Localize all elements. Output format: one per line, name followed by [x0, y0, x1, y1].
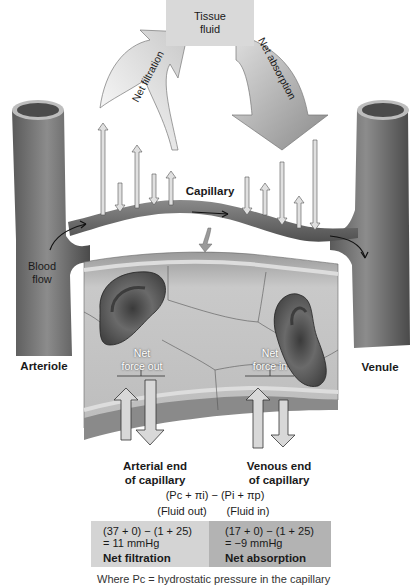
blood-flow-line2: flow: [22, 273, 62, 286]
arterial-end-line2: of capillary: [110, 473, 200, 487]
tissue-fluid-label-line2: fluid: [200, 23, 220, 36]
net-force-in-line1: Net: [245, 347, 295, 360]
starling-equation: (Pc + πi) − (Pi + πp): [140, 489, 290, 501]
zoom-arrow: [199, 228, 212, 252]
venous-end-line1: Venous end: [234, 459, 324, 473]
net-force-out-line2: force out: [115, 360, 169, 373]
venule-vessel: [330, 100, 410, 348]
venous-end-label: Venous end of capillary: [234, 459, 324, 487]
results-table: (37 + 0) − (1 + 25) = 11 mmHg Net filtra…: [91, 521, 331, 567]
venule-label: Venule: [352, 361, 408, 374]
arterial-expression: (37 + 0) − (1 + 25): [103, 525, 209, 537]
blood-flow-label: Blood flow: [22, 260, 62, 286]
tissue-fluid-box: Tissue fluid: [166, 0, 254, 46]
arterial-value: = 11 mmHg: [103, 537, 209, 549]
fluid-out-label: (Fluid out): [147, 505, 217, 517]
venous-result-cell: (17 + 0) − (1 + 25) = −9 mmHg Net absorp…: [209, 521, 331, 567]
venous-result: Net absorption: [225, 552, 331, 564]
net-absorption-arrow: [232, 34, 328, 150]
tissue-fluid-label-line1: Tissue: [194, 10, 226, 23]
net-force-in-label: Net force in: [245, 347, 295, 373]
arterial-result: Net filtration: [103, 552, 209, 564]
venous-expression: (17 + 0) − (1 + 25): [225, 525, 331, 537]
arterial-end-label: Arterial end of capillary: [110, 459, 200, 487]
net-force-out-line1: Net: [115, 347, 169, 360]
venous-end-line2: of capillary: [234, 473, 324, 487]
arterial-result-cell: (37 + 0) − (1 + 25) = 11 mmHg Net filtra…: [91, 521, 209, 567]
fluid-in-label: (Fluid in): [218, 505, 278, 517]
net-force-out-label: Net force out: [115, 347, 169, 373]
net-force-in-line2: force in: [245, 360, 295, 373]
capillary-label: Capillary: [180, 185, 240, 198]
venous-value: = −9 mmHg: [225, 537, 331, 549]
arteriole-label: Arteriole: [14, 360, 74, 373]
blood-flow-line1: Blood: [22, 260, 62, 273]
arterial-end-line1: Arterial end: [110, 459, 200, 473]
footnote: Where Pc = hydrostatic pressure in the c…: [97, 573, 330, 585]
